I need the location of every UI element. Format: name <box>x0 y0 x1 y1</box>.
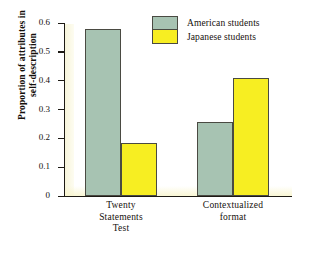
legend-label-american: American students <box>187 18 260 28</box>
plot-tint-column <box>65 24 74 196</box>
y-tick-label-0-4: 0.4 <box>20 75 50 85</box>
y-tick-0 <box>58 196 64 197</box>
legend-item-american: American students <box>152 16 260 30</box>
y-tick-0-6 <box>58 23 64 24</box>
x-category-label-group2: Contextualizedformat <box>175 200 291 223</box>
x-category-label-line: format <box>220 212 247 222</box>
y-tick-label-0-5: 0.5 <box>20 46 50 56</box>
x-category-label-line: Statements <box>99 212 143 222</box>
x-category-label-line: Contextualized <box>203 200 263 210</box>
y-tick-label-0-2: 0.2 <box>20 132 50 142</box>
bar-american-group1 <box>85 29 121 196</box>
y-tick-0-3 <box>58 109 64 110</box>
x-category-label-line: Test <box>113 223 130 233</box>
y-axis-line <box>64 23 65 197</box>
y-tick-label-0-1: 0.1 <box>20 161 50 171</box>
x-category-label-group1: TwentyStatementsTest <box>63 200 179 235</box>
bar-japanese-group2 <box>233 78 269 196</box>
legend-swatch-japanese <box>152 30 178 44</box>
y-tick-label-0: 0 <box>20 190 50 200</box>
y-tick-label-0-3: 0.3 <box>20 104 50 114</box>
y-axis-title-line2: self-description <box>28 33 38 97</box>
y-tick-label-0-6: 0.6 <box>20 17 50 27</box>
legend-item-japanese: Japanese students <box>152 30 260 44</box>
bar-american-group2 <box>197 122 233 196</box>
legend-swatch-american <box>152 16 178 30</box>
x-axis-line <box>64 196 292 197</box>
y-tick-0-4 <box>58 80 64 81</box>
bar-japanese-group1 <box>121 143 157 196</box>
y-tick-0-1 <box>58 167 64 168</box>
x-category-label-line: Twenty <box>106 200 136 210</box>
y-tick-0-2 <box>58 138 64 139</box>
chart-legend: American students Japanese students <box>152 16 260 44</box>
bar-chart: Proportion of attributes in self-descrip… <box>0 0 315 261</box>
legend-label-japanese: Japanese students <box>187 32 256 42</box>
y-tick-0-5 <box>58 51 64 52</box>
